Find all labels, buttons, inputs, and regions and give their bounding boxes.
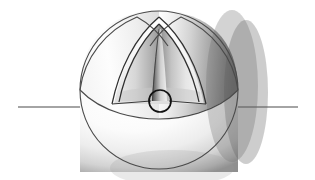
right-limb-shadow-deep [224, 20, 268, 164]
sphere-octant-figure [0, 0, 315, 180]
